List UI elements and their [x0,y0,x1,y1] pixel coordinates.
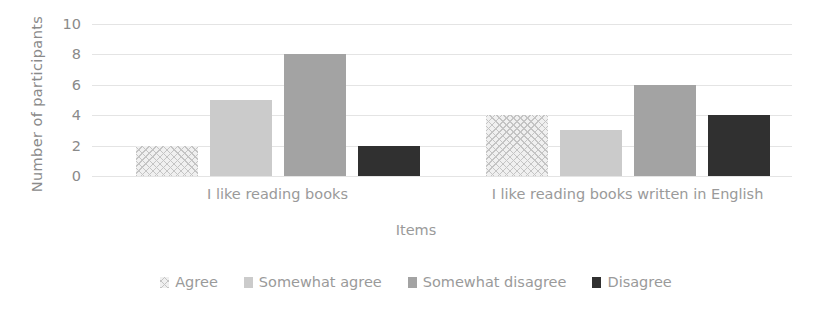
gridline [92,176,792,177]
y-tick-label-0: 0 [72,169,81,184]
gridline [92,54,792,55]
legend-swatch-icon [160,277,169,288]
bar-chart: Number of participants 0246810 I like re… [0,0,832,317]
legend-label: Disagree [607,274,671,290]
y-axis-title: Number of participants [29,9,45,199]
bar-group-0-series-2 [284,54,346,176]
legend-item-1[interactable]: Somewhat agree [244,274,382,290]
legend-item-2[interactable]: Somewhat disagree [408,274,567,290]
legend-swatch-icon [592,277,601,288]
legend-label: Agree [175,274,218,290]
plot-area: 0246810 [92,24,792,176]
y-tick-label-4: 4 [72,108,81,123]
y-tick-label-2: 2 [72,138,81,153]
x-category-label-1: I like reading books written in English [378,186,832,202]
legend-item-0[interactable]: Agree [160,274,218,290]
y-tick-label-8: 8 [72,47,81,62]
bar-group-1-series-0 [486,115,548,176]
legend-item-3[interactable]: Disagree [592,274,671,290]
chart-legend: AgreeSomewhat agreeSomewhat disagreeDisa… [0,274,832,290]
bar-group-0-series-3 [358,146,420,176]
y-tick-label-6: 6 [72,78,81,93]
y-tick-label-10: 10 [63,17,81,32]
gridline [92,24,792,25]
bar-group-0-series-1 [210,100,272,176]
bar-group-1-series-3 [708,115,770,176]
bar-group-1-series-2 [634,85,696,176]
legend-label: Somewhat agree [259,274,382,290]
legend-swatch-icon [408,277,417,288]
legend-swatch-icon [244,277,253,288]
x-axis-title: Items [0,222,832,238]
bar-group-0-series-0 [136,146,198,176]
bar-group-1-series-1 [560,130,622,176]
legend-label: Somewhat disagree [423,274,567,290]
